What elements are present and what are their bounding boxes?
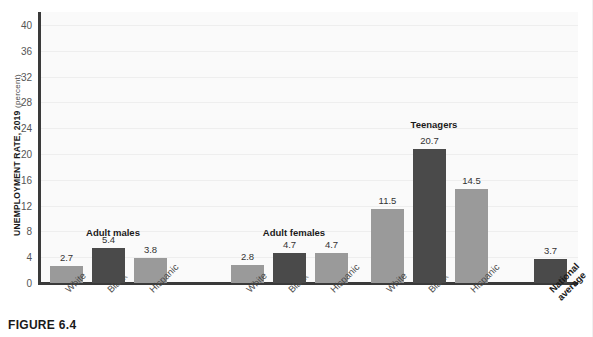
y-axis-title-unit: (percent) (13, 74, 22, 108)
group-label: Teenagers (411, 119, 458, 130)
bar-value-label: 2.7 (60, 252, 73, 263)
bar-value-label: 3.7 (544, 245, 557, 256)
bar-value-label: 4.7 (325, 239, 338, 250)
bar-value-label: 3.8 (144, 244, 157, 255)
bar-value-label: 14.5 (462, 175, 481, 186)
group-label: Adult males (86, 227, 140, 238)
group-label: Adult females (263, 227, 325, 238)
bar-value-label: 2.8 (241, 251, 254, 262)
bar-value-label: 20.7 (420, 135, 439, 146)
y-axis-title: UNEMPLOYMENT RATE, 2019 (percent) (12, 30, 22, 280)
bar-teenagers-hispanic[interactable] (455, 189, 488, 283)
bars-layer: 2.75.43.82.84.74.711.520.714.53.7Adult m… (41, 12, 578, 283)
y-axis-tick-label: 40 (4, 19, 32, 30)
figure-caption: FIGURE 6.4 (8, 318, 76, 332)
bar-teenagers-black[interactable] (413, 149, 446, 283)
y-axis-title-main: UNEMPLOYMENT RATE, 2019 (12, 111, 22, 236)
bar-value-label: 11.5 (379, 195, 397, 206)
bar-value-label: 4.7 (283, 239, 296, 250)
